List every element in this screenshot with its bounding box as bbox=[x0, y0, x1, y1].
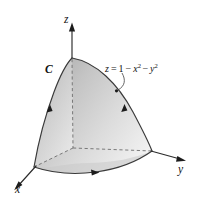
figure-container: x y z C z=1−x2−y2 bbox=[0, 0, 199, 206]
y-axis-label: y bbox=[177, 163, 184, 176]
z-axis-arrowhead bbox=[69, 23, 75, 32]
eq-x-exponent: 2 bbox=[138, 62, 141, 69]
eq-y-exponent: 2 bbox=[155, 62, 158, 69]
eq-z: z bbox=[104, 63, 109, 74]
x-axis: x bbox=[14, 166, 36, 195]
eq-minus-2: − bbox=[142, 63, 148, 74]
y-axis-line bbox=[151, 151, 180, 159]
surface-equation-label: z=1−x2−y2 bbox=[104, 62, 158, 74]
surface-body bbox=[34, 58, 152, 173]
y-axis: y bbox=[151, 151, 186, 176]
x-axis-line bbox=[18, 166, 36, 186]
eq-minus-1: − bbox=[126, 63, 132, 74]
eq-one: 1 bbox=[119, 63, 124, 74]
equation-leader-line bbox=[118, 73, 124, 90]
equation-leader bbox=[115, 73, 124, 92]
curve-c-label: C bbox=[45, 63, 53, 75]
equation-leader-dot bbox=[115, 89, 118, 92]
y-axis-arrowhead bbox=[176, 156, 186, 162]
z-axis-label: z bbox=[63, 13, 69, 25]
x-axis-label: x bbox=[14, 183, 21, 195]
eq-equals: = bbox=[111, 63, 117, 74]
paraboloid-figure: x y z C z=1−x2−y2 bbox=[0, 0, 199, 206]
